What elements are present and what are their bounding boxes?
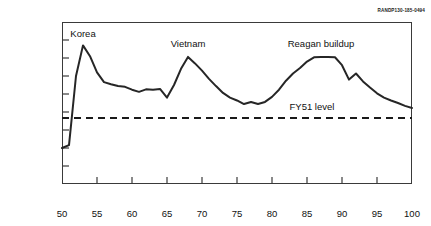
annotation-korea: Korea [70, 27, 95, 38]
fy51-level-label: FY51 level [290, 101, 335, 112]
x-tick-55: 55 [77, 208, 117, 219]
x-tick-95: 95 [357, 208, 397, 219]
x-tick-80: 80 [252, 208, 292, 219]
annotation-vietnam: Vietnam [171, 37, 206, 48]
y-axis-label-line2: (billions, 1993$) [29, 0, 40, 22]
y-axis-label-line1: National defense outlays [18, 0, 29, 24]
plot-area: 0501001502002503003504004505055606570758… [62, 22, 412, 184]
defense-outlays-figure: RANDP130-185-0494 0501001502002503003504… [0, 0, 431, 226]
x-tick-50: 50 [42, 208, 82, 219]
fy51-reference-line [62, 22, 412, 184]
x-tick-65: 65 [147, 208, 187, 219]
annotation-reagan-buildup: Reagan buildup [288, 37, 355, 48]
x-tick-70: 70 [182, 208, 222, 219]
x-tick-75: 75 [217, 208, 257, 219]
rand-document-code: RANDP130-185-0494 [378, 8, 426, 13]
x-tick-85: 85 [287, 208, 327, 219]
x-tick-100: 100 [392, 208, 431, 219]
x-tick-90: 90 [322, 208, 362, 219]
x-tick-60: 60 [112, 208, 152, 219]
y-axis-label: National defense outlays (billions, 1993… [18, 0, 34, 22]
